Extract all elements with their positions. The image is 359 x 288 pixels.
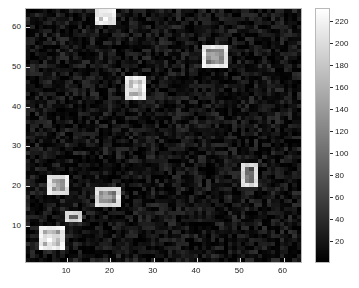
- colorbar-tick: [330, 131, 333, 132]
- y-tick: [26, 27, 30, 28]
- y-tick-label: 30: [12, 141, 21, 150]
- feature-overlay: [26, 9, 301, 262]
- y-tick: [26, 146, 30, 147]
- colorbar[interactable]: 20406080100120140160180200220: [315, 8, 330, 263]
- y-tick-label: 40: [12, 101, 21, 110]
- colorbar-tick: [330, 21, 333, 22]
- x-tick: [154, 258, 155, 262]
- x-tick-label: 20: [105, 266, 114, 275]
- y-tick-label: 20: [12, 181, 21, 190]
- x-tick-label: 40: [192, 266, 201, 275]
- figure-canvas: 102030405060 102030405060 20406080100120…: [0, 0, 359, 288]
- y-tick-label: 50: [12, 61, 21, 70]
- colorbar-tick-label: 80: [335, 171, 344, 180]
- heatmap-feature-3: [127, 79, 146, 99]
- colorbar-tick-label: 220: [335, 17, 348, 26]
- heatmap-feature-4: [242, 168, 255, 188]
- y-tick-label: 60: [12, 21, 21, 30]
- colorbar-gradient: [315, 8, 330, 263]
- x-tick: [284, 258, 285, 262]
- y-tick: [26, 226, 30, 227]
- heatmap-feature-7: [66, 216, 81, 222]
- y-tick: [26, 107, 30, 108]
- x-tick: [67, 258, 68, 262]
- colorbar-tick-label: 200: [335, 39, 348, 48]
- colorbar-tick-label: 180: [335, 61, 348, 70]
- heatmap-axes[interactable]: [25, 8, 302, 263]
- colorbar-tick-label: 100: [335, 149, 348, 158]
- heatmap-feature-8: [42, 230, 61, 250]
- colorbar-tick-label: 140: [335, 105, 348, 114]
- y-tick-label: 10: [12, 221, 21, 230]
- colorbar-tick-label: 160: [335, 83, 348, 92]
- x-tick-label: 10: [62, 266, 71, 275]
- colorbar-tick-label: 120: [335, 127, 348, 136]
- heatmap-feature-2: [205, 47, 229, 67]
- y-tick: [26, 186, 30, 187]
- x-tick-label: 60: [278, 266, 287, 275]
- colorbar-tick: [330, 109, 333, 110]
- y-axis-labels: 102030405060: [0, 0, 21, 288]
- colorbar-tick: [330, 65, 333, 66]
- x-tick: [197, 258, 198, 262]
- colorbar-tick: [330, 43, 333, 44]
- y-tick: [26, 67, 30, 68]
- heatmap-feature-6: [95, 190, 117, 206]
- colorbar-tick-label: 20: [335, 237, 344, 246]
- colorbar-tick: [330, 175, 333, 176]
- heatmap-feature-1: [97, 10, 114, 24]
- colorbar-tick: [330, 241, 333, 242]
- x-tick: [240, 258, 241, 262]
- x-tick: [110, 258, 111, 262]
- colorbar-tick: [330, 87, 333, 88]
- colorbar-tick-label: 40: [335, 215, 344, 224]
- colorbar-tick: [330, 197, 333, 198]
- x-tick-label: 30: [148, 266, 157, 275]
- colorbar-tick-label: 60: [335, 193, 344, 202]
- x-tick-label: 50: [235, 266, 244, 275]
- colorbar-tick: [330, 153, 333, 154]
- heatmap-feature-5: [48, 178, 65, 194]
- colorbar-tick: [330, 219, 333, 220]
